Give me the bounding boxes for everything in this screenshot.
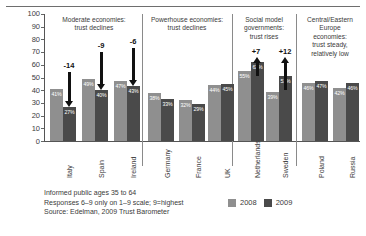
bar-value-netherlands-2008: 55% xyxy=(238,73,251,79)
bar-value-sweden-2008: 39% xyxy=(266,94,279,100)
bar-germany-2009: 33% xyxy=(161,99,174,141)
delta-label-ireland: -6 xyxy=(120,38,146,46)
y-tick-90: 90 xyxy=(16,23,40,31)
y-tick-40: 40 xyxy=(16,87,40,95)
panel-header-line3: economies: xyxy=(298,33,362,41)
delta-label-italy: -14 xyxy=(56,62,82,70)
bar-poland-2008: 46% xyxy=(302,83,315,141)
bar-uk-2008: 44% xyxy=(208,85,221,141)
y-axis-line xyxy=(44,14,45,142)
bar-value-uk-2009: 45% xyxy=(221,86,234,92)
delta-arrow-shaft-italy xyxy=(68,72,71,102)
x-label-poland: Poland xyxy=(318,156,325,178)
delta-arrow-shaft-ireland xyxy=(132,48,135,81)
legend-swatch-2008-icon xyxy=(228,199,236,207)
bar-value-spain-2008: 49% xyxy=(82,81,95,87)
bar-value-uk-2008: 44% xyxy=(208,87,221,93)
panel-header-powerhouse-economies: Powerhouse economies: trust declines xyxy=(144,16,230,33)
delta-arrow-shaft-netherlands xyxy=(256,62,259,76)
y-tick-80: 80 xyxy=(16,36,40,44)
bar-value-ireland-2009: 43% xyxy=(127,88,140,94)
panel-header-line1: Powerhouse economies: xyxy=(144,16,230,24)
bar-value-germany-2009: 33% xyxy=(161,101,174,107)
bar-ireland-2008: 47% xyxy=(114,81,127,141)
bar-value-italy-2008: 41% xyxy=(50,91,63,97)
x-label-france: France xyxy=(195,156,202,178)
y-axis-labels: 100 90 80 70 60 50 40 30 20 10 0 xyxy=(16,10,40,146)
panel-header-line4: trust steady, xyxy=(298,41,362,49)
y-tick-0: 0 xyxy=(16,138,40,146)
panel-header-line2: Europe xyxy=(298,24,362,32)
y-tick-30: 30 xyxy=(16,99,40,107)
y-tick-60: 60 xyxy=(16,61,40,69)
panel-header-moderate-economies: Moderate economies: trust declines xyxy=(48,16,140,33)
legend-label-2009: 2009 xyxy=(276,198,293,207)
bar-russia-2009: 46% xyxy=(346,83,359,141)
y-tick-20: 20 xyxy=(16,112,40,120)
x-label-spain: Spain xyxy=(98,160,105,178)
panel-header-line1: Moderate economies: xyxy=(48,16,140,24)
bar-poland-2009: 47% xyxy=(315,81,328,141)
y-tick-10: 10 xyxy=(16,125,40,133)
x-axis-line xyxy=(44,141,360,142)
panel-header-line1: Social model xyxy=(234,16,294,24)
x-label-russia: Russia xyxy=(349,157,356,178)
bar-germany-2008: 38% xyxy=(148,93,161,141)
x-label-italy: Italy xyxy=(66,165,73,178)
legend-swatch-2009-icon xyxy=(264,199,272,207)
bar-russia-2008: 42% xyxy=(333,88,346,141)
delta-label-netherlands: +7 xyxy=(243,48,269,56)
bar-uk-2009: 45% xyxy=(221,84,234,141)
bar-value-poland-2009: 47% xyxy=(315,83,328,89)
footnotes: Informed public ages 35 to 64 Responses … xyxy=(44,188,184,217)
panel-header-line2: governments: xyxy=(234,24,294,32)
bar-value-poland-2008: 46% xyxy=(302,85,315,91)
bar-italy-2009: 27% xyxy=(63,107,76,141)
trust-barometer-chart: 100 90 80 70 60 50 40 30 20 10 0 Moderat… xyxy=(0,0,366,236)
bar-sweden-2008: 39% xyxy=(266,92,279,142)
panel-header-social-model-governments: Social model governments: trust rises xyxy=(234,16,294,41)
legend-item-2009: 2009 xyxy=(264,198,293,207)
top-divider-rule xyxy=(6,6,360,7)
panel-header-line1: Central/Eastern xyxy=(298,16,362,24)
bar-value-france-2008: 32% xyxy=(179,102,192,108)
y-tick-70: 70 xyxy=(16,48,40,56)
panel-header-line3: trust rises xyxy=(234,33,294,41)
bar-ireland-2009: 43% xyxy=(127,86,140,141)
legend-label-2008: 2008 xyxy=(240,198,257,207)
x-label-germany: Germany xyxy=(164,149,171,178)
bar-value-germany-2008: 38% xyxy=(148,95,161,101)
delta-arrow-head-sweden xyxy=(281,57,289,63)
bar-france-2009: 29% xyxy=(192,104,205,141)
x-label-netherlands: Netherlands xyxy=(254,140,261,178)
chart-legend: 2008 2009 xyxy=(228,198,292,207)
x-label-ireland: Ireland xyxy=(130,157,137,178)
bar-france-2008: 32% xyxy=(179,100,192,141)
bar-value-france-2009: 29% xyxy=(192,106,205,112)
panel-header-line2: trust declines xyxy=(144,24,230,32)
bar-italy-2008: 41% xyxy=(50,89,63,141)
bar-spain-2009: 40% xyxy=(95,90,108,141)
y-tick-50: 50 xyxy=(16,74,40,82)
bar-value-spain-2009: 40% xyxy=(95,92,108,98)
panel-header-central-eastern-europe: Central/Eastern Europe economies: trust … xyxy=(298,16,362,58)
delta-arrow-head-ireland xyxy=(129,80,137,86)
footnote-line-2: Responses 6–9 only on 1–9 scale; 9=highe… xyxy=(44,198,184,208)
delta-label-sweden: +12 xyxy=(271,48,299,56)
bar-value-italy-2009: 27% xyxy=(63,109,76,115)
panel-separator-1 xyxy=(142,14,143,166)
bar-netherlands-2008: 55% xyxy=(238,71,251,141)
x-label-sweden: Sweden xyxy=(282,153,289,178)
delta-label-spain: -9 xyxy=(88,42,114,50)
y-tick-100: 100 xyxy=(16,10,40,18)
delta-arrow-head-netherlands xyxy=(253,57,261,63)
footnote-line-1: Informed public ages 35 to 64 xyxy=(44,188,184,198)
delta-arrow-head-spain xyxy=(97,84,105,90)
legend-item-2008: 2008 xyxy=(228,198,257,207)
bar-value-ireland-2008: 47% xyxy=(114,83,127,89)
x-label-uk: UK xyxy=(224,168,231,178)
footnote-line-3: Source: Edelman, 2009 Trust Barometer xyxy=(44,207,184,217)
bar-spain-2008: 49% xyxy=(82,79,95,141)
delta-arrow-head-italy xyxy=(65,101,73,107)
panel-separator-3 xyxy=(296,14,297,166)
